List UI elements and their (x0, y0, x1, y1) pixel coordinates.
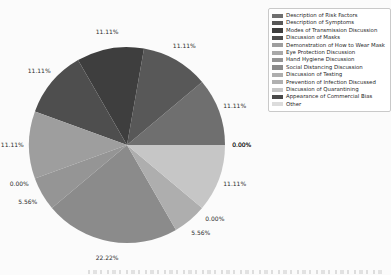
slice-percentage-label: 11.11% (223, 181, 246, 187)
legend-swatch-icon (272, 36, 283, 40)
legend-item-label: Hand Hygiene Discussion (286, 57, 355, 62)
slice-percentage-label: 11.11% (223, 103, 246, 109)
legend-item: Eye Protection Discussion (272, 49, 385, 56)
legend-item: Hand Hygiene Discussion (272, 56, 385, 63)
slice-percentage-label: 11.11% (1, 142, 24, 148)
legend-swatch-icon (272, 95, 283, 99)
legend-item: Modes of Transmission Discussion (272, 27, 385, 34)
legend-swatch-icon (272, 102, 283, 106)
legend-swatch-icon (272, 58, 283, 62)
slice-percentage-label: 5.56% (191, 230, 210, 236)
legend-item: Appearance of Commercial Bias (272, 93, 385, 100)
legend-item: Description of Symptoms (272, 19, 385, 26)
legend-item: Prevention of Infection Discussed (272, 79, 385, 86)
legend-item: Discussion of Masks (272, 34, 385, 41)
legend-swatch-icon (272, 88, 283, 92)
slice-percentage-label: 0.00% (10, 181, 29, 187)
legend-item-label: Discussion of Masks (286, 35, 340, 40)
legend-swatch-icon (272, 51, 283, 55)
legend-item: Discussion of Quarantining (272, 86, 385, 93)
legend-item-label: Other (286, 102, 301, 107)
legend-swatch-icon (272, 65, 283, 69)
legend-item-label: Description of Risk Factors (286, 13, 358, 18)
legend-item: Social Distancing Discussion (272, 64, 385, 71)
slice-percentage-label: 0.00% (205, 216, 224, 222)
legend-swatch-icon (272, 14, 283, 18)
legend-swatch-icon (272, 28, 283, 32)
legend-item-label: Prevention of Infection Discussed (286, 80, 376, 85)
cropped-text-remnant (88, 270, 384, 274)
legend-swatch-icon (272, 43, 283, 47)
legend-swatch-icon (272, 80, 283, 84)
legend-item: Description of Risk Factors (272, 12, 385, 19)
legend-item-label: Discussion of Quarantining (286, 87, 359, 92)
legend-item-label: Eye Protection Discussion (286, 50, 355, 55)
slice-percentage-label: 22.22% (96, 255, 119, 261)
legend-item-label: Social Distancing Discussion (286, 65, 363, 70)
slice-percentage-label: 0.00% (232, 142, 251, 148)
legend-item: Demonstration of How to Wear Mask (272, 42, 385, 49)
legend-item-label: Demonstration of How to Wear Mask (286, 43, 385, 48)
slice-percentage-label: 11.11% (96, 29, 119, 35)
legend-item: Discussion of Testing (272, 71, 385, 78)
legend-item-label: Description of Symptoms (286, 20, 354, 25)
slice-percentage-label: 5.56% (18, 199, 37, 205)
slice-percentage-label: 11.11% (173, 43, 196, 49)
slice-percentage-label: 11.11% (28, 68, 51, 74)
legend-item-label: Appearance of Commercial Bias (286, 94, 372, 99)
legend-item: Other (272, 101, 385, 108)
legend-item-label: Modes of Transmission Discussion (286, 28, 377, 33)
legend-swatch-icon (272, 73, 283, 77)
legend-item-label: Discussion of Testing (286, 72, 342, 77)
legend-swatch-icon (272, 21, 283, 25)
legend: Description of Risk FactorsDescription o… (268, 8, 391, 112)
